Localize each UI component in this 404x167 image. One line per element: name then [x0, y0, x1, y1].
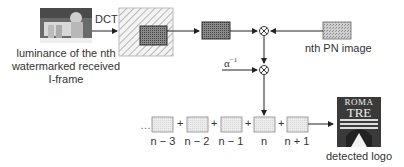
input-frame-image	[40, 8, 92, 43]
frame-box-n-3	[152, 117, 173, 132]
detected-logo-caption: detected logo	[323, 150, 395, 162]
alpha-exponent: −1	[230, 56, 237, 64]
input-caption-line-1: luminance of the nth	[2, 47, 130, 60]
frame-label-n+1: n + 1	[282, 135, 312, 147]
input-caption-line-2: watermarked received	[2, 60, 130, 73]
frame-box-n-1	[221, 117, 242, 132]
frame-label-n-2: n − 2	[182, 135, 212, 147]
selected-coefficients-block	[140, 26, 167, 45]
alpha-inverse-label: α−1	[224, 56, 237, 69]
multiply-node-1	[260, 27, 269, 36]
pn-image-caption: nth PN image	[305, 42, 372, 54]
extracted-block	[202, 22, 230, 39]
frame-label-n: n	[249, 135, 279, 147]
plus-3: +	[245, 117, 251, 129]
logo-text-bottom: TRE	[337, 106, 381, 119]
dct-label: DCT	[95, 13, 118, 25]
plus-1: +	[177, 117, 183, 129]
input-caption-line-3: I-frame	[2, 73, 130, 86]
frame-label-n-1: n − 1	[216, 135, 246, 147]
input-frame-caption: luminance of the nth watermarked receive…	[2, 47, 130, 86]
frame-box-n+1	[287, 117, 308, 132]
plus-2: +	[211, 117, 217, 129]
frame-label-n-3: n − 3	[148, 135, 178, 147]
multiply-node-2	[260, 66, 269, 75]
frame-box-n	[254, 117, 275, 132]
plus-4: +	[278, 117, 284, 129]
sequence-ellipsis: …	[140, 119, 151, 131]
frame-box-n-2	[187, 117, 208, 132]
pn-image-block	[323, 22, 351, 39]
